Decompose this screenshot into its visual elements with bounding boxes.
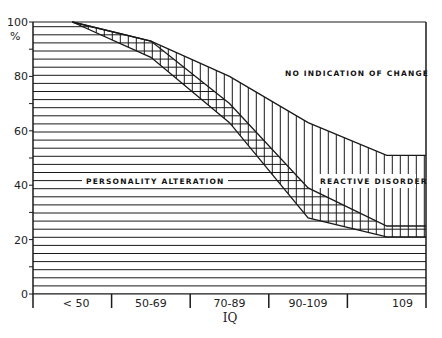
x-tick-label: 50-69 [135,297,167,310]
y-tick-label: 40 [14,179,28,192]
chart: 020406080100 < 5050-6970-8990-109109 % I… [0,0,442,338]
y-tick-label: 0 [21,288,28,301]
x-axis-ticks: < 5050-6970-8990-109109 [63,294,413,310]
personality-alteration-label: PERSONALITY ALTERATION [86,177,225,186]
x-tick-label: < 50 [63,297,90,310]
boundary-line-0 [72,22,426,155]
x-tick-label: 109 [392,297,413,310]
reactive-disorder-label: REACTIVE DISORDER [320,177,428,186]
y-tick-label: 20 [14,234,28,247]
axes [33,22,426,308]
y-tick-label: 80 [14,70,28,83]
y-axis-ticks: 020406080100 [7,16,33,301]
y-unit-label: % [10,30,20,43]
x-tick-label: 70-89 [214,297,246,310]
no-indication-of-change-label: NO INDICATION OF CHANGE [285,69,429,78]
y-tick-label: 100 [7,16,28,29]
y-tick-label: 60 [14,125,28,138]
x-axis-title: IQ [223,311,238,325]
x-tick-label: 90-109 [289,297,328,310]
